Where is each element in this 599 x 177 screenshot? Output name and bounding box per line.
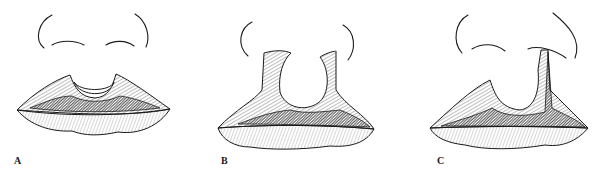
panel-label-a: A <box>14 155 21 166</box>
panel-b-drawing <box>218 22 374 149</box>
panel-label-b: B <box>221 155 228 166</box>
panel-c-drawing <box>430 13 588 149</box>
panel-a-drawing <box>17 14 170 135</box>
surgical-figure: A B C <box>0 0 599 177</box>
figure-drawing <box>0 0 599 177</box>
panel-label-c: C <box>437 155 444 166</box>
